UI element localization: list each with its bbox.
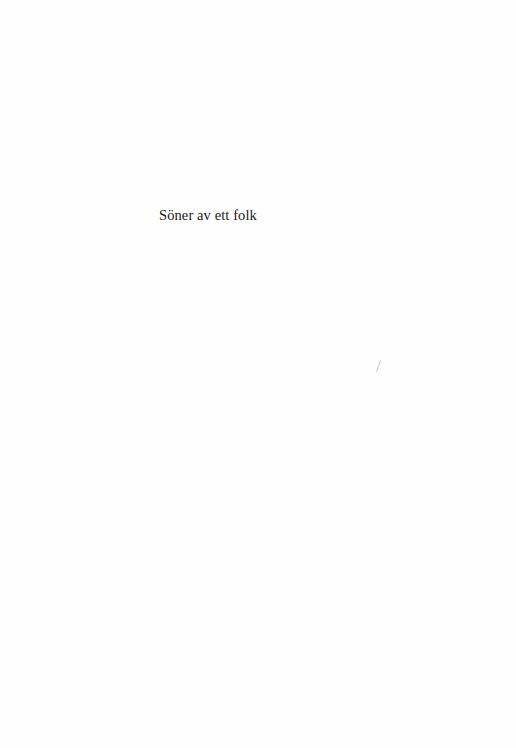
pencil-mark [376,360,381,372]
half-title: Söner av ett folk [159,206,257,224]
book-page: Söner av ett folk [0,0,516,748]
